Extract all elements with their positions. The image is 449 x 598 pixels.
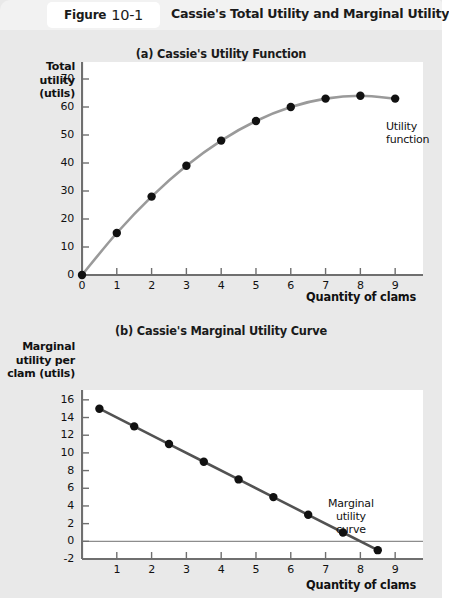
panel-b-x-tick-6: 6	[283, 563, 299, 576]
figure-title: Cassie's Total Utility and Marginal Util…	[171, 6, 449, 21]
panel-a-y-axis-title-line3: (utils)	[12, 87, 75, 101]
panel-b-x-axis-title: Quantity of clams	[306, 578, 416, 592]
panel-b-x-tick-3: 3	[178, 563, 194, 576]
panel-b-data-point-0.5	[95, 404, 103, 412]
panel-a-data-point-3	[182, 162, 190, 170]
panel-b-y-tick-10: 10	[48, 446, 74, 459]
panel-b-chart	[80, 390, 440, 575]
panel-b-x-tick-8: 8	[352, 563, 368, 576]
panel-a-data-point-6	[287, 103, 295, 111]
panel-a-y-tick-20: 20	[48, 212, 74, 225]
utility-function-annotation-line1: Utility	[386, 120, 429, 133]
panel-b-y-tick-2: 2	[48, 517, 74, 530]
panel-b-y-tick--2: -2	[48, 552, 74, 565]
panel-a-data-point-1	[113, 229, 121, 237]
panel-a-x-tick-1: 1	[109, 279, 125, 292]
panel-a-y-tick-60: 60	[48, 100, 74, 113]
panel-b-data-point-8.5	[374, 546, 382, 554]
panel-a-data-point-9	[391, 94, 399, 102]
utility-function-annotation-line2: function	[386, 133, 429, 146]
panel-b-y-tick-8: 8	[48, 464, 74, 477]
panel-a-x-tick-5: 5	[248, 279, 264, 292]
marginal-utility-curve-annotation-line2: utility	[328, 510, 374, 523]
figure-header-band: Figure 10-1 Cassie's Total Utility and M…	[0, 0, 442, 30]
panel-b-y-axis-title-line3: clam (utils)	[2, 367, 75, 381]
panel-b-data-point-5.5	[269, 493, 277, 501]
panel-a-y-tick-30: 30	[48, 184, 74, 197]
panel-a-y-tick-50: 50	[48, 128, 74, 141]
figure-number-tab: Figure 10-1	[47, 2, 160, 28]
panel-b-y-axis-title-line2: utility per	[2, 354, 75, 368]
utility-function-annotation: Utility function	[386, 120, 429, 146]
panel-b-y-tick-4: 4	[48, 499, 74, 512]
panel-b-y-axis-title-line1: Marginal	[2, 340, 75, 354]
figure-word: Figure	[64, 8, 106, 22]
panel-a-data-point-2	[147, 192, 155, 200]
panel-a-x-tick-2: 2	[144, 279, 160, 292]
panel-a-x-tick-8: 8	[352, 279, 368, 292]
panel-a-y-tick-10: 10	[48, 240, 74, 253]
panel-b-x-tick-7: 7	[318, 563, 334, 576]
panel-a-x-axis-title: Quantity of clams	[306, 290, 416, 304]
panel-b-data-point-2.5	[165, 440, 173, 448]
marginal-utility-curve-annotation: Marginal utility curve	[328, 497, 374, 536]
panel-b-x-tick-2: 2	[144, 563, 160, 576]
panel-a-data-point-4	[217, 136, 225, 144]
panel-a-y-tick-40: 40	[48, 156, 74, 169]
panel-b-y-axis-title: Marginal utility per clam (utils)	[2, 340, 75, 381]
panel-b-y-tick-12: 12	[48, 428, 74, 441]
panel-b-y-tick-6: 6	[48, 481, 74, 494]
figure-number: 10-1	[111, 7, 143, 23]
panel-b-data-point-3.5	[200, 458, 208, 466]
panel-a-x-tick-4: 4	[213, 279, 229, 292]
panel-a-subtitle: (a) Cassie's Utility Function	[0, 47, 442, 61]
panel-b-y-tick-14: 14	[48, 411, 74, 424]
marginal-utility-curve-annotation-line1: Marginal	[328, 497, 374, 510]
panel-b-data-point-4.5	[234, 475, 242, 483]
panel-b-x-tick-1: 1	[109, 563, 125, 576]
panel-b-data-point-6.5	[304, 511, 312, 519]
panel-b-subtitle: (b) Cassie's Marginal Utility Curve	[0, 324, 442, 338]
panel-b-y-tick-0: 0	[48, 534, 74, 547]
panel-a-data-point-7	[321, 94, 329, 102]
panel-a-x-tick-7: 7	[318, 279, 334, 292]
panel-a-data-point-0	[78, 271, 86, 279]
panel-a-data-point-8	[356, 92, 364, 100]
panel-a-y-tick-70: 70	[48, 72, 74, 85]
panel-b-x-tick-4: 4	[213, 563, 229, 576]
panel-b-data-point-1.5	[130, 422, 138, 430]
panel-a-x-tick-6: 6	[283, 279, 299, 292]
panel-b-x-tick-5: 5	[248, 563, 264, 576]
panel-b-x-tick-9: 9	[387, 563, 403, 576]
panel-b-y-tick-16: 16	[48, 393, 74, 406]
panel-a-chart	[80, 62, 440, 292]
panel-a-y-tick-0: 0	[48, 268, 74, 281]
panel-a-x-tick-3: 3	[178, 279, 194, 292]
panel-a-x-tick-9: 9	[387, 279, 403, 292]
panel-a-x-tick-0: 0	[74, 279, 90, 292]
marginal-utility-curve-annotation-line3: curve	[328, 523, 374, 536]
panel-a-data-point-5	[252, 117, 260, 125]
